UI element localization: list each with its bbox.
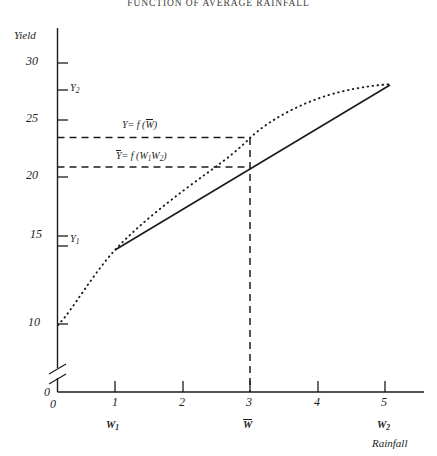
y-tick-label-20: 20 — [26, 169, 38, 181]
chart-canvas — [0, 0, 437, 456]
figure-container: FUNCTION OF AVERAGE RAINFALL — [0, 0, 437, 456]
y2-marker-label: Y2 — [70, 83, 80, 95]
w1-marker-label: W1 — [106, 420, 119, 432]
y-tick-label-15: 15 — [30, 228, 42, 240]
wbar-marker-label: W — [243, 420, 252, 431]
y1-marker-label: Y1 — [70, 234, 80, 246]
w2-marker-label: W2 — [377, 420, 390, 432]
production-function-curve — [58, 84, 392, 325]
x-tick-label-2: 2 — [179, 396, 185, 408]
x-tick-label-4: 4 — [314, 396, 320, 408]
x-tick-label-1: 1 — [112, 396, 118, 408]
y-tick-label-25: 25 — [26, 112, 38, 124]
y-tick-label-10: 10 — [28, 316, 40, 328]
x-tick-label-5: 5 — [381, 396, 387, 408]
x-tick-label-0: 0 — [50, 398, 56, 410]
x-axis-title: Rainfall — [372, 438, 407, 449]
annotation-lower-equation: Y= f (W1W2) — [116, 151, 167, 163]
y-tick-label-30: 30 — [26, 55, 38, 67]
x-tick-label-3: 3 — [246, 396, 252, 408]
y-axis-title: Yield — [14, 30, 36, 41]
annotation-upper-equation: Y= f (W) — [122, 120, 157, 130]
